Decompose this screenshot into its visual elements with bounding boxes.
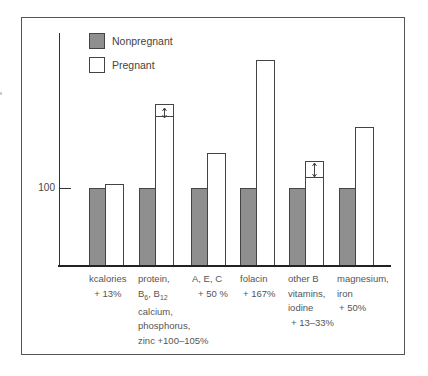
x-axis-baseline: [58, 265, 391, 267]
label-line: phosphorus,: [138, 319, 209, 334]
label-line: A, E, C: [192, 272, 228, 287]
range-box-protein: [155, 104, 174, 117]
y-tick-100: [59, 188, 71, 189]
bar-pregnant-folacin: [256, 60, 275, 266]
label-line: magnesium,: [337, 272, 389, 287]
category-label-magnesium: magnesium,iron+ 50%: [337, 272, 389, 316]
label-text: , B: [148, 288, 160, 299]
y-axis: [59, 33, 60, 267]
label-line: zinc +100–105%: [138, 334, 209, 349]
label-line: + 167%: [240, 287, 276, 302]
category-label-folacin: folacin+ 167%: [240, 272, 276, 301]
y-tick-label-100: 100: [33, 182, 55, 193]
legend-label-nonpregnant: Nonpregnant: [112, 35, 173, 47]
label-line: iron: [337, 287, 389, 302]
label-line: iodine: [288, 301, 334, 316]
bar-pregnant-magnesium: [355, 127, 374, 266]
scan-artifact: [0, 92, 2, 95]
legend-label-pregnant: Pregnant: [112, 59, 155, 71]
bar-pregnant-aec: [207, 153, 226, 266]
label-line: + 13–33%: [288, 316, 334, 331]
bar-pregnant-other-b: [305, 177, 324, 266]
category-label-other-b: other Bvitamins,iodine+ 13–33%: [288, 272, 334, 330]
legend-swatch-nonpregnant: [89, 33, 105, 49]
label-line: kcalories: [89, 273, 127, 284]
legend-item-nonpregnant: Nonpregnant: [89, 33, 173, 49]
range-box-other-b: [305, 161, 324, 178]
label-line: folacin: [240, 272, 276, 287]
category-label-aec: A, E, C+ 50 %: [192, 272, 228, 301]
subscript-12: 12: [160, 293, 168, 300]
double-arrow-icon: [156, 107, 174, 119]
label-line: vitamins,: [288, 287, 334, 302]
label-line: + 50 %: [192, 287, 228, 302]
label-line: calcium,: [138, 305, 209, 320]
double-arrow-icon: [306, 162, 324, 178]
label-line: + 50%: [337, 301, 389, 316]
category-label-kcalories: kcalories + 13%: [89, 272, 127, 301]
bar-pregnant-kcalories: [105, 184, 124, 266]
label-line: other B: [288, 272, 334, 287]
label-line: + 13%: [94, 288, 121, 299]
bar-pregnant-protein: [155, 116, 174, 266]
legend-item-pregnant: Pregnant: [89, 57, 155, 73]
legend-swatch-pregnant: [89, 57, 105, 73]
